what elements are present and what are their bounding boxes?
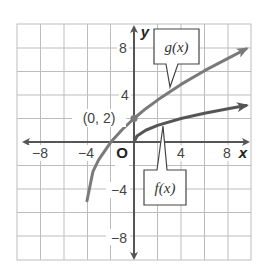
- point-marker: [131, 115, 138, 122]
- y-tick-label: 4: [121, 87, 129, 103]
- x-tick-label: −8: [32, 145, 48, 161]
- axes: [24, 27, 248, 258]
- x-axis-label: x: [238, 144, 248, 161]
- graph-canvas: −8 −4 4 8 x O 8 4 −4 −8 y (0, 2) g(x) f(…: [0, 0, 261, 277]
- origin-label: O: [116, 144, 128, 161]
- g-callout-label: g(x): [164, 39, 188, 56]
- f-curve: [135, 106, 246, 140]
- f-callout-label: f(x): [155, 180, 176, 197]
- y-tick-label: 8: [119, 40, 127, 56]
- y-tick-label: −8: [111, 230, 127, 246]
- y-axis-label: y: [140, 23, 150, 40]
- x-tick-label: −4: [78, 145, 94, 161]
- y-tick-label: −4: [111, 182, 127, 198]
- x-tick-label: 8: [223, 145, 231, 161]
- point-label: (0, 2): [83, 110, 116, 126]
- x-tick-label: 4: [177, 145, 185, 161]
